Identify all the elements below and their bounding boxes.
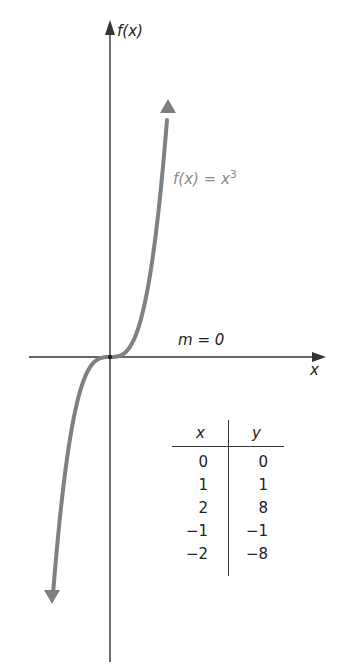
curve-top-arrow-icon: [160, 99, 176, 113]
slope-label: m = 0: [178, 331, 224, 349]
table-cell-y: −8: [238, 545, 268, 563]
curve-bottom-arrow-icon: [44, 590, 60, 604]
x-axis-label: x: [310, 361, 319, 379]
table-cell-y: −1: [238, 522, 268, 540]
table-cell-x: 0: [178, 453, 208, 471]
table-cell-x: 2: [178, 499, 208, 517]
table-divider-vertical: [228, 420, 229, 576]
table-cell-y: 1: [238, 476, 268, 494]
table-header-y: y: [252, 424, 261, 442]
table-divider-horizontal: [172, 446, 284, 447]
table-cell-y: 8: [238, 499, 268, 517]
graph-canvas: [0, 0, 343, 670]
function-label-text: f(x) = x: [173, 170, 230, 188]
table-cell-x: 1: [178, 476, 208, 494]
table-cell-y: 0: [238, 453, 268, 471]
table-cell-x: −2: [178, 545, 208, 563]
function-exponent: 3: [230, 168, 237, 181]
table-header-x: x: [196, 424, 205, 442]
origin-point: [108, 355, 112, 359]
y-axis-arrow-icon: [105, 20, 115, 35]
y-axis-label: f(x): [117, 22, 143, 40]
function-label: f(x) = x3: [173, 168, 237, 188]
table-cell-x: −1: [178, 522, 208, 540]
